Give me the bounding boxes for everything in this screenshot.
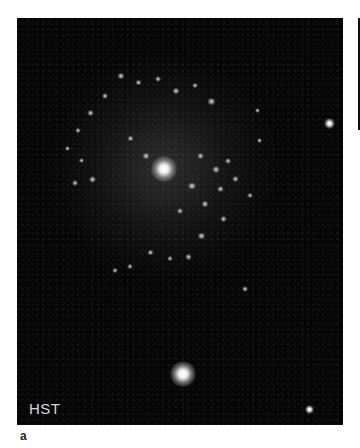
- bright-foreground-star: [170, 361, 196, 387]
- foreground-star-bottom-right: [305, 405, 314, 414]
- galaxy-nucleus: [151, 156, 177, 182]
- hst-image-panel: HST: [17, 18, 343, 425]
- foreground-star-right: [324, 118, 335, 129]
- panel-label: a: [20, 429, 27, 443]
- instrument-label: HST: [29, 400, 61, 417]
